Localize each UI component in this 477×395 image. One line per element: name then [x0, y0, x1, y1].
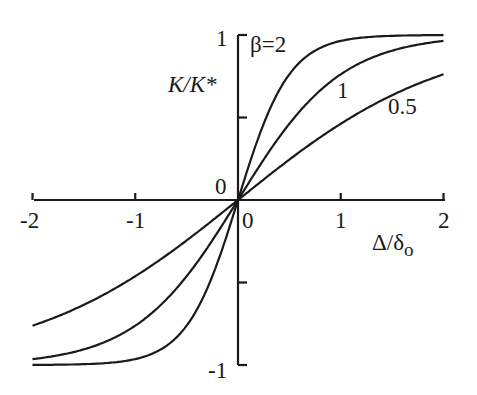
chart: -2-1012-110β=210.5 K/K* Δ/δo: [0, 0, 477, 395]
x-tick-label: 0: [242, 208, 254, 233]
x-tick-label: -2: [20, 208, 39, 233]
y-tick-label: 1: [216, 26, 228, 51]
y-tick-label: -1: [208, 358, 227, 383]
x-tick-label: -1: [126, 208, 145, 233]
x-tick-label: 1: [335, 208, 347, 233]
series-label-beta-0-5: 0.5: [388, 94, 417, 119]
y-axis-label-text: K/K*: [167, 72, 217, 97]
series-label-beta-2: β=2: [250, 32, 286, 57]
series-label-beta-1: 1: [337, 78, 349, 103]
x-tick-label: 2: [438, 208, 450, 233]
origin-label: 0: [215, 174, 227, 199]
y-axis-label: K/K*: [167, 72, 217, 97]
x-axis-label: Δ/δo: [372, 230, 414, 260]
